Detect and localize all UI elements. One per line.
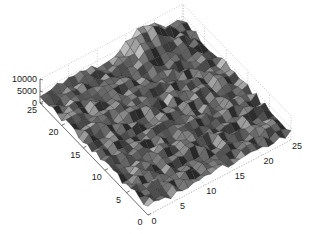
z-tick — [40, 79, 43, 80]
z-tick-label: 5000 — [17, 86, 37, 96]
z-tick-label: 0 — [32, 98, 37, 108]
x-tick-label: 10 — [206, 186, 216, 196]
y-tick-label: 20 — [49, 127, 59, 137]
y-tick — [83, 146, 86, 148]
surface-plot: 051015202505101520250500010000 — [0, 0, 327, 234]
z-tick — [40, 91, 43, 92]
y-tick-label: 15 — [70, 150, 80, 160]
y-tick — [105, 169, 108, 171]
surface-mesh — [40, 20, 291, 206]
y-tick — [148, 214, 151, 216]
x-tick-label: 15 — [235, 171, 245, 181]
y-tick-label: 10 — [92, 172, 102, 182]
x-tick-label: 5 — [180, 201, 185, 211]
x-tick-label: 20 — [263, 156, 273, 166]
x-tick-label: 25 — [292, 141, 302, 151]
y-tick — [62, 124, 65, 126]
y-tick-label: 5 — [116, 195, 121, 205]
y-tick-label: 0 — [137, 217, 142, 227]
y-tick — [126, 191, 129, 193]
z-tick-label: 10000 — [12, 74, 37, 84]
x-tick-label: 0 — [151, 216, 156, 226]
